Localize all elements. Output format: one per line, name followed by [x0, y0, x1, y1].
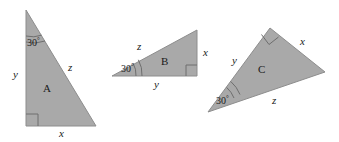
triangle-a-angle-label: 30° [27, 37, 40, 48]
triangle-a-side-y-label: y [13, 69, 18, 80]
triangle-a-group [26, 10, 96, 126]
triangle-c-side-z-label: z [272, 95, 276, 106]
triangle-b-side-x-label: x [203, 47, 208, 58]
triangles-canvas [0, 0, 339, 142]
triangle-a-shape [26, 10, 96, 126]
triangle-b-angle-label: 30° [121, 63, 134, 74]
triangle-b-side-z-label: z [137, 41, 141, 52]
triangle-a-name-label: A [43, 83, 51, 94]
degree-symbol: ° [131, 62, 134, 70]
triangles-figure: 30° y z A x 30° z B x y 30° y C x z [0, 0, 339, 142]
degree-symbol: ° [37, 36, 40, 44]
triangle-c-angle-label: 30° [216, 95, 229, 106]
triangle-b-side-y-label: y [154, 79, 159, 90]
triangle-c-name-label: C [258, 64, 265, 75]
triangle-c-side-x-label: x [300, 36, 305, 47]
triangle-c-side-y-label: y [232, 55, 237, 66]
triangle-b-name-label: B [161, 56, 168, 67]
triangle-a-side-z-label: z [68, 62, 72, 73]
degree-symbol: ° [226, 94, 229, 102]
triangle-a-side-x-label: x [59, 128, 64, 139]
